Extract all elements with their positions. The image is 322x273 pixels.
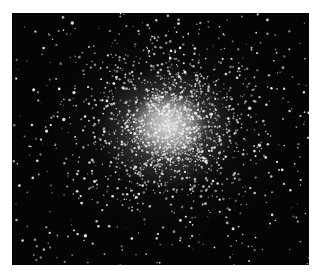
stars-layer: [12, 13, 309, 265]
star-cluster-photo: [12, 13, 309, 265]
